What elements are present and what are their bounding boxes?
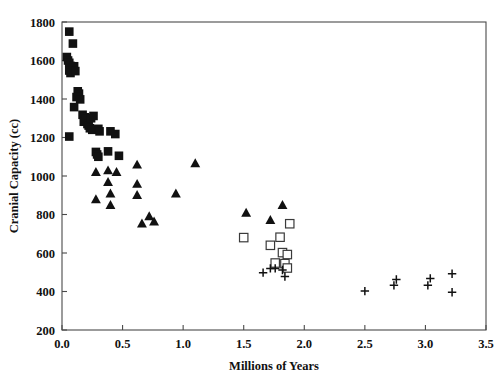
data-point-filled-square <box>70 103 79 112</box>
data-point-filled-triangle <box>103 165 113 174</box>
data-point-filled-triangle <box>132 179 142 188</box>
y-tick-label: 200 <box>36 324 55 338</box>
data-point-filled-square <box>89 112 98 121</box>
data-point-filled-triangle <box>106 200 116 209</box>
data-point-filled-triangle <box>112 167 122 176</box>
data-point-filled-square <box>65 132 74 141</box>
x-tick-label: 1.5 <box>236 337 252 351</box>
data-point-filled-square <box>115 151 124 160</box>
y-tick-label: 1800 <box>30 16 55 30</box>
y-tick-label: 1000 <box>30 170 55 184</box>
y-tick-label: 600 <box>36 247 55 261</box>
data-point-open-square <box>266 241 274 249</box>
x-axis-title: Millions of Years <box>229 359 319 373</box>
data-point-filled-triangle <box>144 211 154 220</box>
x-tick-label: 3.0 <box>418 337 434 351</box>
data-point-filled-triangle <box>241 208 251 217</box>
data-point-filled-triangle <box>91 167 101 176</box>
scatter-chart-figure: 0.00.51.01.52.02.53.03.5 200400600800100… <box>0 0 504 376</box>
plot-frame <box>62 22 486 330</box>
x-tick-label: 1.0 <box>175 337 191 351</box>
data-point-open-square <box>276 233 284 241</box>
y-tick-label: 400 <box>36 285 55 299</box>
data-point-plus <box>361 287 369 295</box>
data-point-filled-triangle <box>132 160 142 169</box>
data-point-filled-triangle <box>132 190 142 199</box>
data-point-open-square <box>286 220 294 228</box>
data-point-open-square <box>283 250 291 258</box>
data-point-filled-square <box>111 130 120 139</box>
x-axis-ticks: 0.00.51.01.52.02.53.03.5 <box>54 325 494 351</box>
data-point-filled-triangle <box>106 189 116 198</box>
data-point-plus <box>448 288 456 296</box>
y-axis-title: Cranial Capacity (cc) <box>7 119 21 234</box>
x-tick-label: 0.0 <box>54 337 70 351</box>
data-point-open-square <box>283 264 291 272</box>
x-tick-label: 2.5 <box>357 337 373 351</box>
data-point-filled-square <box>95 127 104 136</box>
x-tick-label: 3.5 <box>478 337 494 351</box>
data-point-open-square <box>240 233 248 241</box>
data-point-plus <box>259 268 267 276</box>
data-point-layer <box>63 27 457 296</box>
data-point-filled-square <box>104 147 113 156</box>
y-tick-label: 1400 <box>30 93 55 107</box>
data-point-filled-square <box>71 67 80 76</box>
y-tick-label: 1200 <box>30 131 55 145</box>
y-tick-label: 800 <box>36 208 55 222</box>
data-point-plus <box>448 270 456 278</box>
data-point-filled-triangle <box>91 194 101 203</box>
data-point-filled-square <box>65 27 74 36</box>
data-point-filled-triangle <box>171 189 181 198</box>
data-point-filled-triangle <box>103 177 113 186</box>
data-point-filled-square <box>69 39 78 48</box>
y-tick-label: 1600 <box>30 54 55 68</box>
data-point-filled-square <box>76 95 85 104</box>
data-point-filled-triangle <box>190 158 200 167</box>
x-tick-label: 0.5 <box>115 337 131 351</box>
data-point-filled-triangle <box>265 215 275 224</box>
data-point-filled-triangle <box>278 200 288 209</box>
plot-canvas: 0.00.51.01.52.02.53.03.5 200400600800100… <box>0 0 504 376</box>
data-point-filled-square <box>94 152 103 161</box>
x-tick-label: 2.0 <box>296 337 312 351</box>
